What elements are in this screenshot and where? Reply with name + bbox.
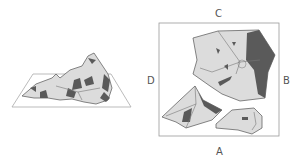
label-right: B	[283, 76, 290, 86]
label-top: C	[215, 9, 222, 19]
label-bottom: A	[216, 147, 223, 157]
shadow-patch	[242, 117, 248, 120]
label-left: D	[147, 76, 155, 86]
perspective-view	[12, 53, 131, 107]
plan-view	[159, 23, 279, 136]
